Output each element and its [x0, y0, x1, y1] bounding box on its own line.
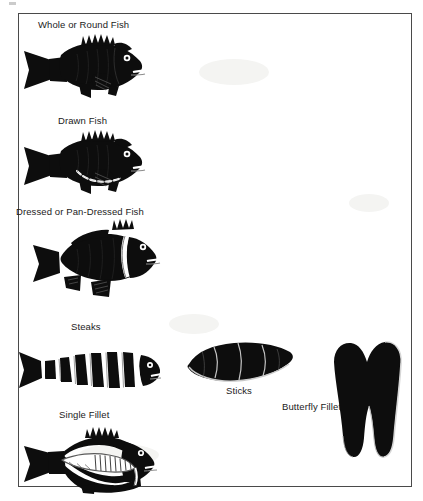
- art-drawn-fish: [21, 128, 147, 196]
- label-whole-round-fish: Whole or Round Fish: [38, 19, 129, 30]
- art-sticks: [182, 338, 297, 388]
- art-whole-round-fish: [21, 32, 147, 100]
- label-single-fillet: Single Fillet: [59, 409, 109, 420]
- label-dressed-pan-dressed-fish: Dressed or Pan-Dressed Fish: [16, 206, 144, 217]
- scan-mottle: [349, 194, 389, 212]
- figure-frame: Whole or Round Fish: [18, 13, 412, 487]
- art-steaks: [15, 334, 161, 396]
- art-dressed-pan-dressed-fish: [15, 219, 161, 297]
- art-butterfly-fillet: [322, 338, 408, 462]
- label-steaks: Steaks: [71, 321, 101, 332]
- scan-mottle: [169, 314, 219, 334]
- figure-root: Whole or Round Fish: [0, 0, 423, 501]
- label-drawn-fish: Drawn Fish: [58, 115, 107, 126]
- scan-artifact-speck: [9, 2, 16, 5]
- art-single-fillet: [21, 424, 157, 494]
- scan-mottle: [199, 59, 269, 85]
